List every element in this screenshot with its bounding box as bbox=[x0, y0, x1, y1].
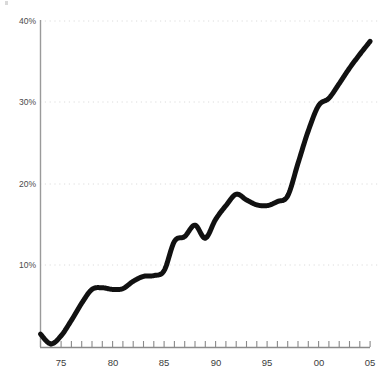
y-tick-label-40: 40% bbox=[19, 16, 36, 26]
x-tick-label-00: 00 bbox=[314, 357, 325, 368]
x-axis bbox=[40, 341, 370, 348]
x-tick-label-95: 95 bbox=[262, 357, 273, 368]
x-tick-label-80: 80 bbox=[108, 357, 119, 368]
y-tick-label-30: 30% bbox=[19, 97, 36, 107]
x-tick-label-85: 85 bbox=[159, 357, 170, 368]
y-tick-label-20: 20% bbox=[19, 179, 36, 189]
chart-container: 40% 30% 20% 10% bbox=[0, 0, 383, 377]
series-group bbox=[41, 41, 371, 344]
line-chart: 40% 30% 20% 10% bbox=[0, 0, 383, 377]
y-tick-label-10: 10% bbox=[19, 260, 36, 270]
data-line-series-1 bbox=[41, 41, 371, 344]
x-tick-label-05: 05 bbox=[365, 357, 376, 368]
x-axis-minor-ticks bbox=[41, 341, 371, 347]
x-tick-label-75: 75 bbox=[56, 357, 67, 368]
x-axis-tick-labels: 75 80 85 90 95 00 05 bbox=[56, 357, 376, 368]
x-tick-label-90: 90 bbox=[211, 357, 222, 368]
y-axis-tick-labels: 40% 30% 20% 10% bbox=[19, 16, 36, 270]
